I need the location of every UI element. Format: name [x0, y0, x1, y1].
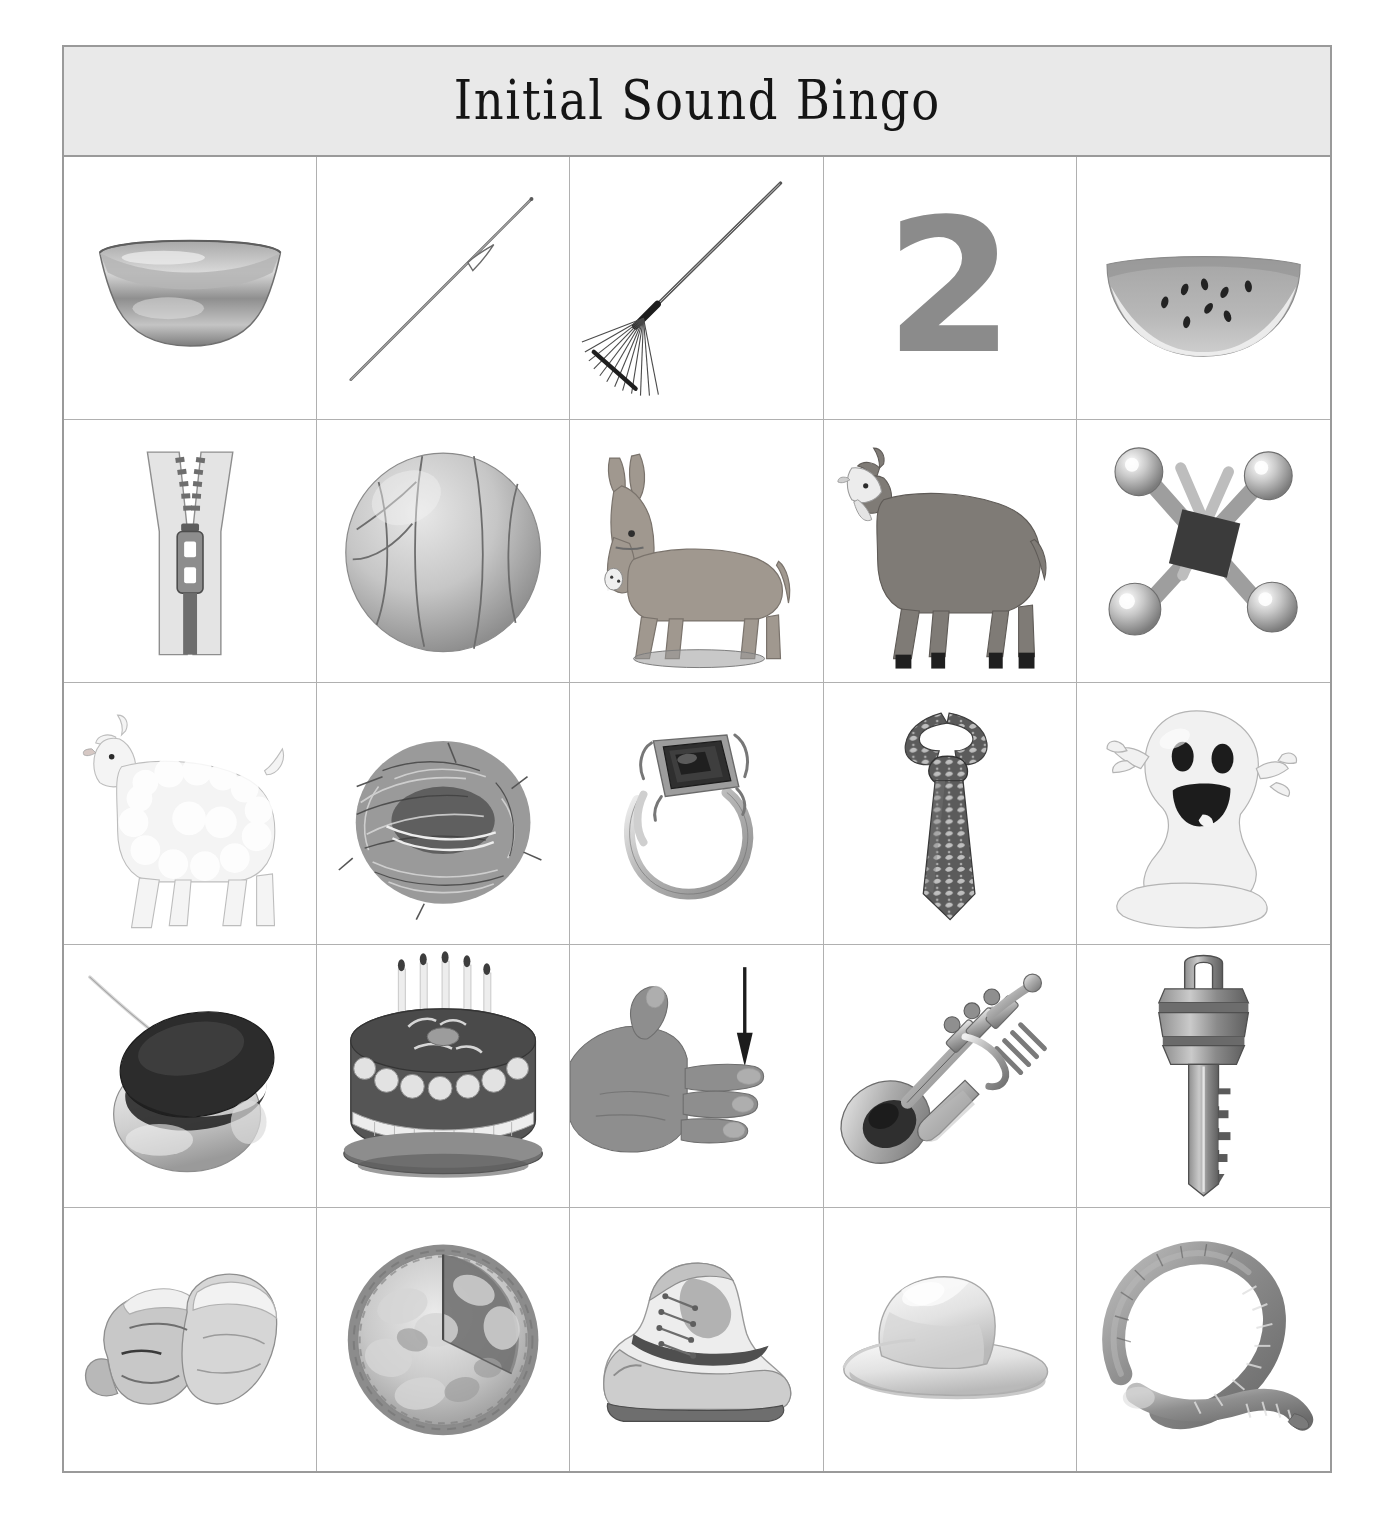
cake-icon	[317, 945, 569, 1207]
bingo-cell-key[interactable]: key	[1077, 945, 1330, 1208]
needle-icon	[317, 157, 569, 419]
page-title: Initial Sound Bingo	[453, 74, 940, 128]
bingo-cell-ghost[interactable]: ghost	[1077, 683, 1330, 946]
nest-icon	[317, 683, 569, 945]
bingo-cell-watermelon[interactable]: watermelon	[1077, 157, 1330, 420]
bingo-cell-jacks[interactable]: jacks	[1077, 420, 1330, 683]
key-icon	[1077, 945, 1330, 1207]
bingo-cell-tie[interactable]: tie	[824, 683, 1077, 946]
bingo-cell-rake[interactable]: rake	[570, 157, 823, 420]
bingo-cell-worm[interactable]: worm	[1077, 1208, 1330, 1471]
bingo-card: Initial Sound Bingo	[62, 45, 1332, 1473]
bingo-cell-zipper[interactable]: zipper	[64, 420, 317, 683]
zipper-icon	[64, 420, 316, 682]
bingo-cell-finger[interactable]: finger	[570, 945, 823, 1208]
ghost-icon	[1077, 683, 1330, 945]
goat-icon	[824, 420, 1076, 682]
bingo-cell-nest[interactable]: nest	[317, 683, 570, 946]
jacks-icon	[1077, 420, 1330, 682]
bowl-icon	[64, 157, 316, 419]
bingo-cell-ring[interactable]: ring	[570, 683, 823, 946]
bingo-grid: bowl needle	[64, 157, 1330, 1471]
bingo-cell-cake[interactable]: cake	[317, 945, 570, 1208]
ball-icon	[317, 420, 569, 682]
numeral-two: 2	[885, 195, 1014, 380]
donkey-icon	[570, 420, 822, 682]
watermelon-icon	[1077, 157, 1330, 419]
bingo-cell-yoyo[interactable]: yo-yo	[64, 945, 317, 1208]
bingo-cell-two[interactable]: 2	[824, 157, 1077, 420]
bingo-cell-lamb[interactable]: lamb	[64, 683, 317, 946]
worksheet-page: Initial Sound Bingo	[0, 0, 1384, 1530]
bingo-cell-hat[interactable]: hat	[824, 1208, 1077, 1471]
bingo-cell-goat[interactable]: goat	[824, 420, 1077, 683]
bingo-cell-donkey[interactable]: donkey	[570, 420, 823, 683]
lamb-icon	[64, 683, 316, 945]
bingo-cell-pie[interactable]: pie	[317, 1208, 570, 1471]
yoyo-icon	[64, 945, 316, 1207]
hat-icon	[824, 1208, 1076, 1471]
ring-icon	[570, 683, 822, 945]
shoe-icon	[570, 1208, 822, 1471]
worm-icon	[1077, 1208, 1330, 1471]
down-arrow-icon	[737, 968, 753, 1067]
mittens-icon	[64, 1208, 316, 1471]
bingo-cell-shoe[interactable]: shoe	[570, 1208, 823, 1471]
trumpet-icon	[824, 945, 1076, 1207]
pie-icon	[317, 1208, 569, 1471]
hand-finger-icon	[570, 945, 822, 1207]
bingo-cell-needle[interactable]: needle	[317, 157, 570, 420]
tie-icon	[824, 683, 1076, 945]
bingo-cell-bowl[interactable]: bowl	[64, 157, 317, 420]
bingo-cell-trumpet[interactable]: trumpet	[824, 945, 1077, 1208]
card-header: Initial Sound Bingo	[64, 47, 1330, 157]
bingo-cell-ball[interactable]: ball	[317, 420, 570, 683]
rake-icon	[570, 157, 822, 419]
bingo-cell-mittens[interactable]: mittens	[64, 1208, 317, 1471]
